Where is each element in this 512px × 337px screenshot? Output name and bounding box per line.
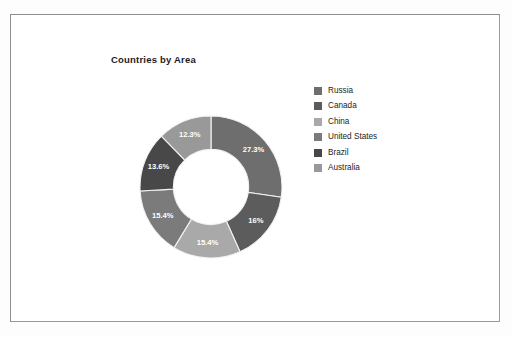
legend-item: Russia [314, 83, 434, 99]
legend-item: United States [314, 130, 434, 146]
legend-swatch-icon [314, 87, 322, 95]
pie-slice-value-label: 16% [248, 216, 263, 225]
legend-swatch-icon [314, 118, 322, 126]
chart-legend: RussiaCanadaChinaUnited StatesBrazilAust… [314, 83, 434, 176]
legend-item-label: Russia [328, 87, 353, 95]
legend-swatch-icon [314, 164, 322, 172]
legend-item: China [314, 114, 434, 130]
legend-item-label: China [328, 118, 349, 126]
pie-slice [211, 116, 282, 197]
donut-slices [140, 116, 282, 258]
pie-slice-value-label: 15.4% [197, 238, 219, 247]
legend-swatch-icon [314, 149, 322, 157]
donut-chart-svg: 27.3%16%15.4%15.4%13.6%12.3% [139, 115, 283, 259]
legend-item: Canada [314, 99, 434, 115]
legend-swatch-icon [314, 133, 322, 141]
legend-swatch-icon [314, 102, 322, 110]
pie-slice-value-label: 27.3% [243, 145, 265, 154]
figure-frame: Countries by Area 27.3%16%15.4%15.4%13.6… [10, 14, 500, 322]
legend-item: Australia [314, 161, 434, 177]
pie-slice-value-label: 15.4% [152, 211, 174, 220]
legend-item-label: Brazil [328, 149, 348, 157]
legend-item-label: Australia [328, 164, 360, 172]
legend-item-label: Canada [328, 102, 357, 110]
legend-item: Brazil [314, 145, 434, 161]
chart-title: Countries by Area [111, 54, 196, 65]
legend-item-label: United States [328, 133, 377, 141]
donut-chart: 27.3%16%15.4%15.4%13.6%12.3% [139, 115, 283, 259]
pie-slice-value-label: 13.6% [148, 162, 170, 171]
pie-slice-value-label: 12.3% [179, 130, 201, 139]
